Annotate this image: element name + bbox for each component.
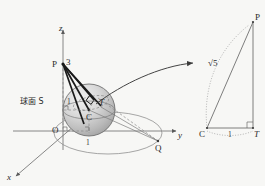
- triangle-point-t-label: T: [254, 129, 260, 139]
- figure-canvas: z y x O P 3 C T Q 1 1 球面 S P C T √5 1: [0, 0, 265, 186]
- point-q-label: Q: [155, 143, 162, 153]
- sphere-caption: 球面 S: [20, 96, 44, 106]
- point-p-label: P: [52, 59, 57, 69]
- triangle-point-p-label: P: [255, 12, 260, 22]
- right-angle-marker-triangle: [247, 122, 253, 128]
- geometry-figure: z y x O P 3 C T Q 1 1 球面 S P C T √5 1: [0, 0, 265, 186]
- triangle-point-c-label: C: [199, 129, 205, 139]
- right-angle-marker-origin: [63, 127, 67, 131]
- hypotenuse-length-label: √5: [208, 58, 218, 68]
- z-axis-label: z: [58, 23, 63, 33]
- point-q-marker: [157, 140, 159, 142]
- apex-height-label: 3: [66, 57, 71, 67]
- hypotenuse-measure-arc: [206, 25, 249, 128]
- triangle-point-p-marker: [252, 21, 254, 23]
- triangle-point-c-marker: [206, 127, 208, 129]
- triangle-base-length-label: 1: [228, 130, 232, 139]
- triangle-hypotenuse-cp: [207, 22, 253, 128]
- point-c-label: C: [86, 112, 92, 122]
- radius-length-label: 1: [67, 97, 71, 106]
- y-axis-label: y: [177, 130, 182, 140]
- base-unit-label: 1: [86, 138, 90, 147]
- origin-label: O: [52, 125, 59, 135]
- x-axis-label: x: [6, 172, 11, 182]
